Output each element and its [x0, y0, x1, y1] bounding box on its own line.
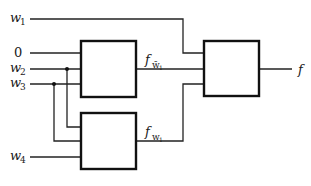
- svg-text:3: 3: [20, 82, 26, 92]
- svg-text:4: 4: [20, 155, 26, 165]
- svg-text:1: 1: [159, 64, 163, 71]
- svg-text:1: 1: [159, 136, 163, 143]
- junction-dot-w2: [65, 67, 69, 71]
- input-label-w3: w 3: [10, 75, 26, 92]
- input-label-w1: w 1: [10, 10, 26, 27]
- input-label-zero: 0: [14, 45, 22, 60]
- circuit-diagram: w 1 0 w 2 w 3 w 4 f w̄ 1 f w 1 f: [0, 0, 311, 186]
- svg-text:0: 0: [14, 45, 22, 60]
- wire-w2-branch: [67, 69, 81, 127]
- circuit-svg: w 1 0 w 2 w 3 w 4 f w̄ 1 f w 1 f: [0, 0, 311, 186]
- svg-text:f: f: [297, 62, 305, 77]
- svg-text:f: f: [144, 52, 152, 67]
- block-top: [81, 41, 136, 97]
- svg-text:f: f: [144, 124, 152, 139]
- input-label-w4: w 4: [10, 148, 26, 165]
- output-label-f: f: [297, 62, 305, 77]
- block-mux: [204, 41, 259, 96]
- signal-label-f-w1: f w 1: [144, 124, 163, 143]
- junction-dot-w3: [52, 82, 56, 86]
- signal-label-f-not-w1: f w̄ 1: [144, 52, 163, 71]
- block-bottom: [81, 113, 136, 169]
- svg-text:1: 1: [20, 17, 26, 27]
